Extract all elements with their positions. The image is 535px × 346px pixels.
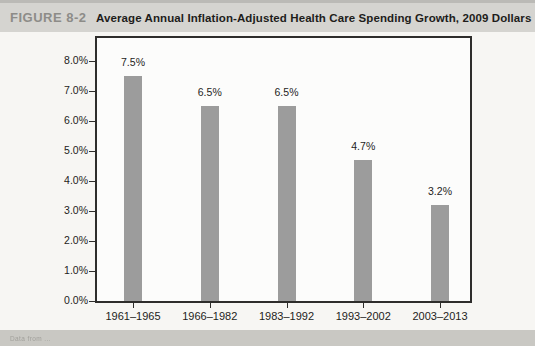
y-axis-tick-label: 4.0% [38,174,88,186]
bar-value-label: 3.2% [410,185,470,197]
figure-header: FIGURE 8-2 Average Annual Inflation-Adju… [0,0,535,32]
figure-title: Average Annual Inflation-Adjusted Health… [96,12,531,24]
x-axis-tick [287,303,288,308]
source-caption: Data from ... [10,335,51,342]
figure-footer: Data from ... [0,330,535,346]
y-axis-tick-label: 3.0% [38,204,88,216]
x-axis-tick [440,303,441,308]
x-axis-tick [210,303,211,308]
bar [431,205,449,301]
bar [354,160,372,301]
y-axis-tick-label: 5.0% [38,144,88,156]
bar-value-label: 6.5% [180,86,240,98]
y-axis-tick [89,151,96,152]
figure-label: FIGURE 8-2 [10,10,87,25]
y-axis-tick [89,181,96,182]
bar-value-label: 6.5% [257,86,317,98]
x-axis-tick [133,303,134,308]
y-axis-tick [89,241,96,242]
bar-chart: 0.0%1.0%2.0%3.0%4.0%5.0%6.0%7.0%8.0%7.5%… [0,32,535,330]
bar [124,76,142,301]
y-axis-tick [89,91,96,92]
x-axis-category-label: 2003–2013 [395,310,485,322]
y-axis-tick-label: 7.0% [38,84,88,96]
y-axis-tick [89,211,96,212]
y-axis-tick [89,301,96,302]
y-axis-tick-label: 8.0% [38,54,88,66]
y-axis-tick [89,61,96,62]
y-axis-tick-label: 0.0% [38,294,88,306]
bar-value-label: 7.5% [103,56,163,68]
y-axis-tick-label: 1.0% [38,264,88,276]
bar-value-label: 4.7% [333,140,393,152]
bar [201,106,219,301]
y-axis-tick [89,121,96,122]
y-axis-tick-label: 2.0% [38,234,88,246]
y-axis-tick [89,271,96,272]
bar [278,106,296,301]
y-axis-tick-label: 6.0% [38,114,88,126]
figure: FIGURE 8-2 Average Annual Inflation-Adju… [0,0,535,346]
x-axis-tick [363,303,364,308]
